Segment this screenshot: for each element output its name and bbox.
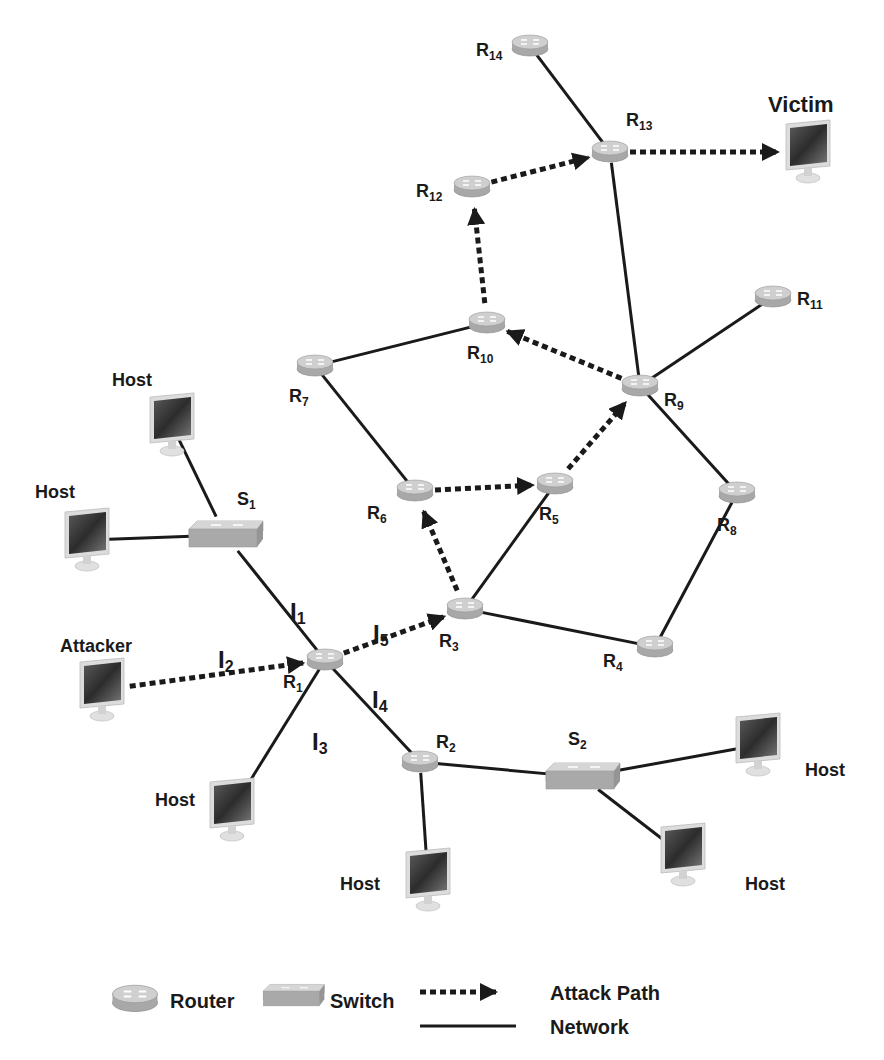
- attack-link-R3-R6: [424, 511, 458, 590]
- router-icon-r2: [402, 751, 438, 772]
- router-label-r3: R3: [439, 631, 459, 654]
- router-icon-r10: [469, 312, 505, 333]
- network-link-R7-R6: [322, 374, 409, 482]
- network-link-R9-R8: [647, 394, 729, 485]
- network-link-R3-R5: [471, 493, 548, 600]
- switch-label-s1: S1: [237, 489, 256, 512]
- router-label-r4: R4: [603, 651, 623, 674]
- router-icon-r6: [397, 480, 433, 501]
- attacker-monitor-icon: [80, 658, 124, 721]
- network-link-R13-R9: [611, 163, 638, 376]
- network-link-R1-host-bottom-left: [240, 669, 319, 797]
- legend-router-label: Router: [170, 990, 235, 1012]
- network-link-S1-R1: [238, 551, 319, 652]
- router-icon-r5: [537, 473, 573, 494]
- switch-icon: [263, 984, 324, 1005]
- attacker-label: Attacker: [60, 636, 132, 656]
- router-icon-r11: [755, 286, 791, 307]
- attack-link-attacker-R1: [130, 663, 303, 686]
- router-label-r13: R13: [626, 110, 653, 133]
- host-monitor-icon: [150, 393, 194, 456]
- attack-link-R5-R9: [568, 403, 625, 469]
- host-left-label: Host: [35, 482, 75, 502]
- host-monitor-icon: [65, 508, 109, 571]
- network-diagram: R1R2R3R4R5R6R7R8R9R10R11R12R13R14S1S2Hos…: [0, 0, 884, 1060]
- host-right-label: Host: [805, 760, 845, 780]
- router-label-r2: R2: [436, 732, 456, 755]
- attack-link-R10-R12: [474, 209, 484, 303]
- switch-icon-s2: [546, 763, 620, 789]
- legend-network-item: Network: [420, 1016, 630, 1038]
- router-icon-r14: [512, 35, 548, 56]
- router-label-r11: R11: [797, 289, 823, 312]
- attack-link-R12-R13: [491, 157, 588, 182]
- legend-attack-path-item: Attack Path: [420, 982, 660, 1004]
- legend: Router Switch Attack Path Network: [113, 982, 661, 1038]
- attack-link-R9-R10: [507, 331, 621, 378]
- interface-label-l2: I2: [218, 646, 234, 675]
- victim-label: Victim: [768, 92, 834, 117]
- switch-label-s2: S2: [568, 729, 587, 752]
- interface-label-l3: I3: [312, 728, 328, 757]
- host-bottom-left-label: Host: [155, 790, 195, 810]
- network-link-S2-host-right: [602, 748, 743, 774]
- legend-switch-item: Switch: [263, 984, 394, 1012]
- legend-network-label: Network: [550, 1016, 630, 1038]
- router-icon-r1: [307, 649, 343, 670]
- host-monitor-icon: [210, 778, 254, 841]
- router-icon: [113, 985, 158, 1011]
- router-label-r12: R12: [416, 181, 443, 204]
- router-icon-r8: [719, 482, 755, 503]
- host-monitor-icon: [661, 823, 705, 886]
- router-label-r8: R8: [717, 515, 737, 538]
- attack-link-R1-R3: [344, 617, 445, 654]
- network-link-R7-R10: [325, 326, 476, 364]
- interface-label-l1: I1: [290, 598, 306, 627]
- router-icon-r9: [622, 375, 658, 396]
- host-monitor-icon: [736, 713, 780, 776]
- router-label-r6: R6: [367, 503, 387, 526]
- host-bottom-right-label: Host: [745, 874, 785, 894]
- host-monitor-icon: [406, 848, 450, 911]
- router-label-r5: R5: [539, 504, 559, 527]
- legend-attack-path-label: Attack Path: [550, 982, 660, 1004]
- router-label-r1: R1: [283, 672, 303, 695]
- switch-icon-s1: [189, 521, 263, 547]
- router-label-r10: R10: [467, 343, 494, 366]
- network-link-R14-R13: [537, 55, 604, 144]
- router-label-r7: R7: [289, 386, 309, 409]
- router-label-r9: R9: [664, 390, 684, 413]
- legend-router-item: Router: [113, 985, 235, 1012]
- network-link-R2-S2: [431, 763, 562, 775]
- interface-label-l4: I4: [372, 686, 388, 715]
- router-icon-r7: [297, 355, 333, 376]
- node-labels: R1R2R3R4R5R6R7R8R9R10R11R12R13R14S1S2Hos…: [35, 40, 845, 894]
- host-bottom-mid-label: Host: [340, 874, 380, 894]
- network-link-R4-R3: [476, 611, 645, 645]
- router-icon-r13: [592, 141, 628, 162]
- interface-label-l5: I5: [373, 620, 389, 649]
- nodes: [65, 35, 830, 911]
- router-icon-r3: [447, 598, 483, 619]
- router-label-r14: R14: [476, 40, 503, 63]
- legend-switch-label: Switch: [330, 990, 394, 1012]
- router-icon-r4: [637, 636, 673, 657]
- network-link-S2-host-bottom-right: [598, 789, 671, 845]
- router-icon-r12: [454, 176, 490, 197]
- network-links: [103, 55, 764, 865]
- host-top-left-label: Host: [112, 370, 152, 390]
- network-link-R11-R9: [649, 303, 764, 380]
- victim-monitor-icon: [786, 120, 830, 183]
- attack-link-R6-R5: [435, 485, 533, 490]
